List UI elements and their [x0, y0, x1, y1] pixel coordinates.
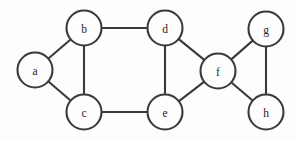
node-layer: abcdefgh [18, 11, 284, 130]
graph-edge-a-c [48, 81, 71, 101]
graph-node-label-h: h [263, 107, 269, 119]
graph-edge-a-b [48, 39, 71, 59]
graph-edge-d-f [178, 39, 205, 61]
graph-node-label-b: b [81, 23, 87, 35]
graph-canvas: abcdefgh [0, 0, 298, 141]
graph-edge-f-g [231, 40, 254, 60]
graph-node-h: h [249, 95, 284, 130]
graph-node-label-e: e [162, 107, 167, 119]
graph-node-a: a [18, 53, 53, 88]
graph-edge-e-f [178, 81, 204, 101]
graph-node-label-g: g [263, 24, 269, 37]
graph-node-label-c: c [81, 107, 86, 119]
graph-node-b: b [67, 11, 102, 46]
graph-node-label-f: f [216, 66, 220, 78]
graph-node-e: e [148, 95, 183, 130]
graph-edge-f-h [231, 82, 253, 101]
graph-diagram: abcdefgh [0, 0, 298, 141]
graph-node-d: d [148, 11, 183, 46]
graph-node-label-d: d [162, 23, 168, 35]
graph-node-c: c [67, 95, 102, 130]
graph-node-label-a: a [32, 65, 37, 77]
graph-node-g: g [249, 12, 284, 47]
graph-node-f: f [201, 54, 236, 89]
